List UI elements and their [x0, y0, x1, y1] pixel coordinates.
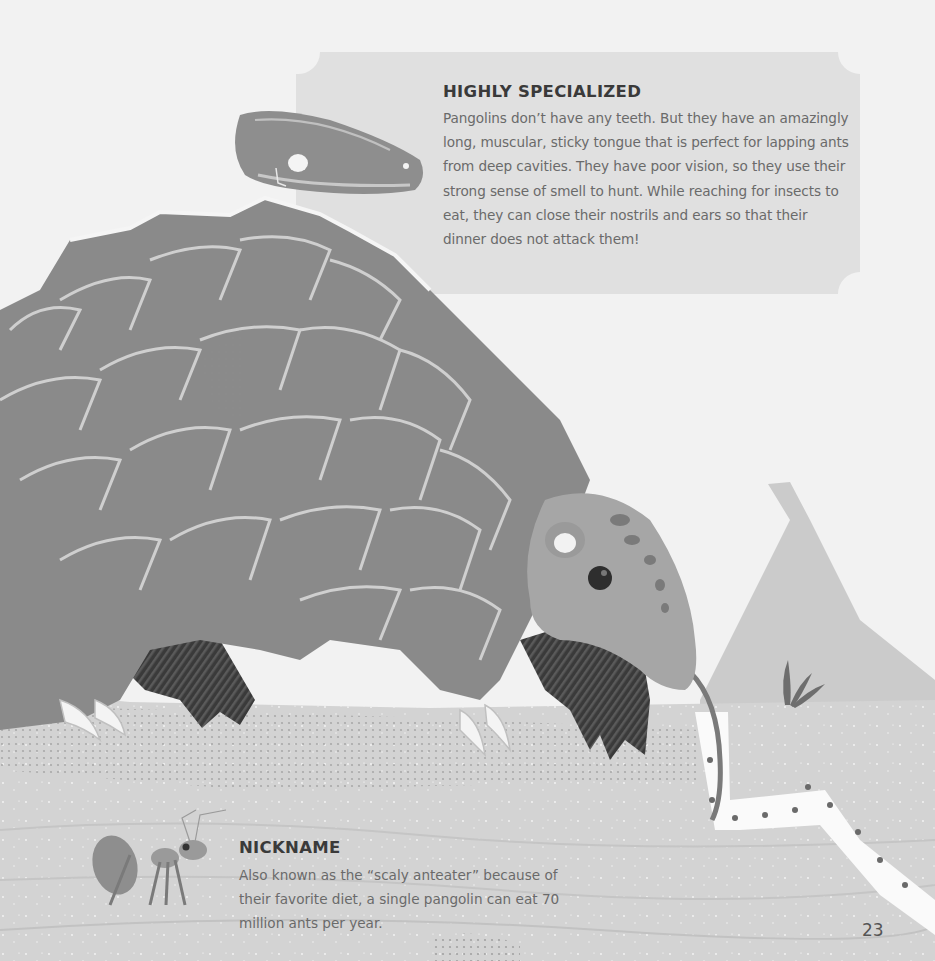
highly-specialized-heading: HIGHLY SPECIALIZED: [443, 82, 641, 101]
nickname-body: Also known as the “scaly anteater” becau…: [239, 863, 569, 936]
pangolin-eye: [588, 566, 612, 590]
highly-specialized-body: Pangolins don’t have any teeth. But they…: [443, 106, 853, 251]
pangolin-ear: [545, 522, 585, 558]
page-number: 23: [862, 920, 884, 940]
mountain: [700, 482, 935, 720]
nickname-heading: NICKNAME: [239, 838, 341, 857]
book-page: HIGHLY SPECIALIZED Pangolins don’t have …: [0, 0, 935, 961]
